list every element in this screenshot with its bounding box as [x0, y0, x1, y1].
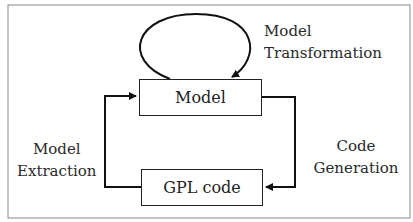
gpl-code-node-label: GPL code [163, 178, 241, 197]
model-extraction-label: Model Extraction [17, 138, 96, 182]
model-transformation-label: Model Transformation [264, 20, 382, 64]
gpl-code-node: GPL code [141, 169, 263, 206]
model-node-label: Model [175, 88, 226, 107]
code-generation-label: Code Generation [313, 135, 399, 179]
transformation-loop-arrow [140, 14, 250, 79]
model-extraction-arrow [105, 96, 141, 187]
model-node: Model [139, 79, 262, 116]
code-generation-arrow [261, 97, 295, 187]
